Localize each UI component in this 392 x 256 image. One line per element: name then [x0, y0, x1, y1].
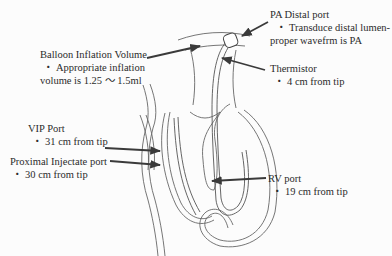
- pa-distal-line1: ・Transduce distal lumen-: [270, 21, 390, 34]
- arrow-proximal: [110, 161, 160, 165]
- arrow-vip: [105, 148, 160, 151]
- heart-outline: [140, 33, 277, 256]
- catheter-diagram: PA Distal port ・Transduce distal lumen- …: [0, 0, 392, 256]
- proximal-line1: ・30 cm from tip: [10, 168, 107, 181]
- vip-title: VIP Port: [28, 122, 108, 135]
- thermistor-title: Thermistor: [270, 62, 344, 75]
- rv-title: RV port: [268, 172, 348, 185]
- balloon-line2: volume is 1.25 ～ 1.5ml: [40, 74, 147, 87]
- balloon-line1: ・Appropriate inflation: [40, 61, 147, 74]
- balloon-title: Balloon Inflation Volume: [40, 48, 147, 61]
- vip-line1: ・31 cm from tip: [28, 135, 108, 148]
- pa-distal-title: PA Distal port: [270, 8, 390, 21]
- arrow-thermistor: [222, 58, 265, 70]
- label-rv-port: RV port ・19 cm from tip: [268, 172, 348, 198]
- label-pa-distal-port: PA Distal port ・Transduce distal lumen- …: [270, 8, 390, 47]
- label-balloon-inflation: Balloon Inflation Volume ・Appropriate in…: [40, 48, 147, 87]
- label-thermistor: Thermistor ・4 cm from tip: [270, 62, 344, 88]
- arrow-pa-distal: [242, 22, 268, 36]
- thermistor-line1: ・4 cm from tip: [270, 75, 344, 88]
- proximal-title: Proximal Injectate port: [10, 155, 107, 168]
- balloon-tip: [222, 32, 239, 49]
- label-vip-port: VIP Port ・31 cm from tip: [28, 122, 108, 148]
- rv-line1: ・19 cm from tip: [268, 185, 348, 198]
- label-proximal-injectate-port: Proximal Injectate port ・30 cm from tip: [10, 155, 107, 181]
- pa-distal-line2: proper wavefrm is PA: [270, 34, 390, 47]
